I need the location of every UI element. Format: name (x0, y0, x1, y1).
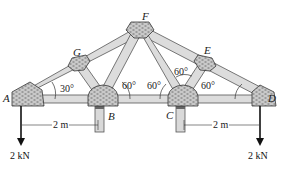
truss-drawing (0, 0, 284, 170)
joint-label-f: F (142, 11, 149, 22)
angle-label-a: 30° (60, 84, 74, 94)
bottom-chord (20, 95, 270, 103)
post-c (176, 104, 185, 132)
load-arrow-left (17, 106, 25, 146)
joint-label-e: E (204, 45, 211, 56)
angle-label-b: 60° (122, 81, 136, 91)
angle-label-c-upper: 60° (174, 67, 188, 77)
load-label-left: 2 kN (10, 151, 30, 161)
joint-label-b: B (108, 111, 115, 122)
gusset-c (168, 85, 198, 106)
joint-label-c: C (166, 110, 173, 121)
angle-label-d: 60° (201, 81, 215, 91)
dimension-label-right: 2 m (212, 120, 229, 130)
load-arrow-right (256, 106, 264, 146)
load-label-right: 2 kN (248, 151, 268, 161)
dimension-label-left: 2 m (52, 120, 69, 130)
gusset-b (88, 85, 118, 106)
joint-label-d: D (268, 93, 276, 104)
joint-label-g: G (73, 47, 81, 58)
post-b (95, 104, 104, 132)
joint-label-a: A (3, 93, 10, 104)
angle-label-c-left: 60° (147, 81, 161, 91)
